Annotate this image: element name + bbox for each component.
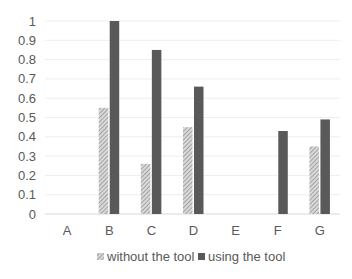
bar-D-without-tool: [183, 127, 193, 214]
bar-G-using-tool: [320, 119, 330, 214]
y-tick-label: 0.1: [18, 187, 36, 202]
y-axis: 00.10.20.30.40.50.60.70.80.91: [18, 14, 36, 222]
bar-D-using-tool: [194, 87, 204, 214]
y-tick-label: 0.6: [18, 91, 36, 106]
y-tick-label: 0.3: [18, 149, 36, 164]
x-tick-label: D: [189, 223, 198, 238]
x-tick-label: G: [315, 223, 325, 238]
y-tick-label: 0.2: [18, 168, 36, 183]
bar-C-without-tool: [141, 164, 151, 214]
x-tick-label: A: [63, 223, 72, 238]
x-tick-label: E: [231, 223, 240, 238]
y-tick-label: 0.7: [18, 71, 36, 86]
bar-chart: 00.10.20.30.40.50.60.70.80.91 ABCDEFG wi…: [0, 0, 352, 279]
y-tick-label: 1: [29, 14, 36, 29]
x-tick-label: B: [105, 223, 114, 238]
x-tick-label: C: [147, 223, 156, 238]
legend-label-without-tool: without the tool: [106, 249, 195, 264]
y-tick-label: 0: [29, 207, 36, 222]
x-axis: ABCDEFG: [63, 223, 325, 238]
y-tick-label: 0.4: [18, 129, 36, 144]
y-tick-label: 0.8: [18, 52, 36, 67]
legend-label-using-tool: using the tool: [208, 249, 285, 264]
x-tick-label: F: [274, 223, 282, 238]
bar-C-using-tool: [152, 50, 162, 214]
y-tick-label: 0.9: [18, 33, 36, 48]
y-tick-label: 0.5: [18, 110, 36, 125]
legend-swatch-without-tool: [97, 253, 104, 260]
legend: without the tool using the tool: [97, 249, 285, 264]
bar-B-without-tool: [99, 108, 109, 214]
bar-B-using-tool: [110, 21, 120, 214]
bar-F-using-tool: [278, 131, 288, 214]
bar-G-without-tool: [309, 146, 319, 214]
legend-swatch-using-tool: [198, 253, 205, 260]
